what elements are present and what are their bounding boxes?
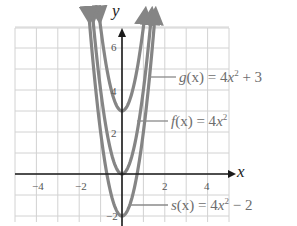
equation-f-var: x bbox=[216, 113, 223, 129]
chart-canvas bbox=[0, 0, 297, 226]
y-axis-arrow-icon bbox=[118, 28, 126, 37]
equation-f: f(x) = 4x2 bbox=[171, 112, 227, 130]
x-tick-4: 4 bbox=[204, 180, 210, 192]
y-tick-2: 2 bbox=[111, 127, 117, 139]
y-tick-4: 4 bbox=[111, 85, 117, 97]
x-axis-arrow-icon bbox=[228, 170, 236, 178]
y-axis-label: y bbox=[112, 1, 120, 21]
x-tick-2: 2 bbox=[162, 180, 168, 192]
equation-g: g(x) = 4x2 + 3 bbox=[179, 68, 262, 86]
x-axis-label: x bbox=[237, 162, 245, 182]
y-tick-neg2: −2 bbox=[106, 210, 118, 222]
equation-g-const: + 3 bbox=[239, 69, 262, 85]
equation-g-fn: g bbox=[179, 69, 187, 85]
equation-f-mid: (x) = 4 bbox=[175, 113, 216, 129]
x-tick-neg4: −4 bbox=[32, 180, 44, 192]
equation-g-mid: (x) = 4 bbox=[187, 69, 228, 85]
equation-f-exp: 2 bbox=[223, 112, 228, 122]
equation-s-mid: (x) = 4 bbox=[177, 197, 218, 213]
x-tick-neg2: −2 bbox=[75, 180, 87, 192]
equation-s: s(x) = 4x2 − 2 bbox=[171, 196, 252, 214]
equation-s-const: − 2 bbox=[229, 197, 252, 213]
y-tick-6: 6 bbox=[111, 41, 117, 53]
